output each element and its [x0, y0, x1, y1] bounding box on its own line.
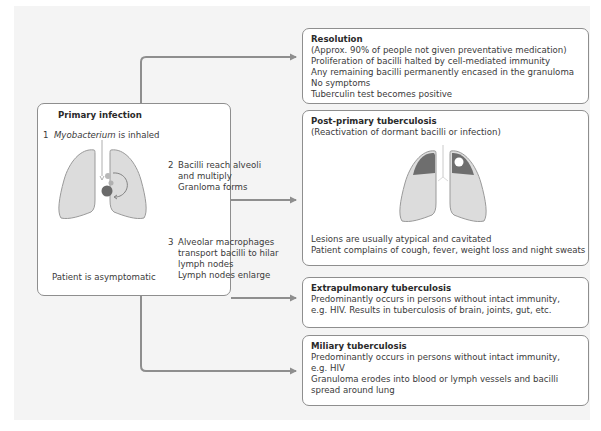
lungs-cavitated-lesions-illustration — [394, 145, 494, 227]
post-primary-title: Post-primary tuberculosis — [311, 116, 588, 127]
primary-infection-box: Primary infection 1 Myobacterium is inha… — [37, 103, 231, 296]
extrapulmonary-title: Extrapulmonary tuberculosis — [311, 283, 588, 294]
post-primary-details: Lesions are usually atypical and cavitat… — [311, 234, 585, 256]
step-1-number: 1 — [43, 130, 48, 140]
miliary-title: Miliary tuberculosis — [311, 341, 588, 352]
post-primary-box: Post-primary tuberculosis (Reactivation … — [302, 110, 589, 266]
resolution-box: Resolution (Approx. 90% of people not gi… — [302, 28, 589, 104]
step-1-text: is inhaled — [116, 130, 160, 140]
step-3-number: 3 — [168, 237, 173, 247]
alveoli-dot-2 — [109, 181, 114, 186]
miliary-box: Miliary tuberculosis Predominantly occur… — [302, 335, 589, 406]
step-3: 3 — [168, 237, 173, 248]
granuloma-icon — [102, 186, 113, 197]
lungs-granuloma-illustration — [51, 140, 156, 225]
extrapulmonary-box: Extrapulmonary tuberculosis Predominantl… — [302, 277, 589, 328]
step-2-text: Bacilli reach alveoli and multiply Granl… — [178, 160, 261, 193]
step-2: 2 — [168, 160, 173, 171]
resolution-title: Resolution — [311, 34, 588, 45]
step-3-text: Alveolar macrophages transport bacilli t… — [178, 237, 279, 281]
primary-infection-title: Primary infection — [58, 110, 142, 121]
primary-footer: Patient is asymptomatic — [52, 272, 156, 283]
step-1-organism: Myobacterium — [54, 130, 116, 140]
cavity-icon — [455, 158, 464, 167]
alveoli-dot-1 — [105, 173, 111, 179]
step-2-number: 2 — [168, 160, 173, 170]
post-primary-subtitle: (Reactivation of dormant bacilli or infe… — [311, 127, 588, 138]
